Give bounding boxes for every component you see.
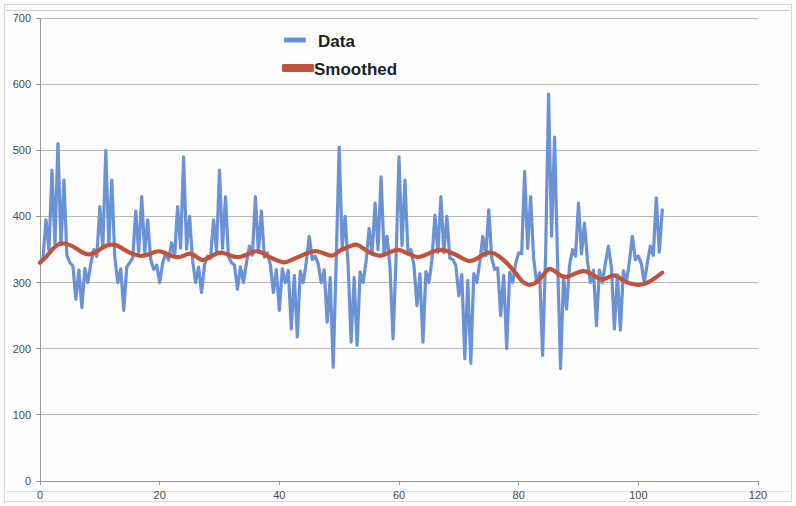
legend: DataSmoothed (282, 32, 397, 79)
y-tick-label: 500 (13, 144, 31, 156)
chart-container: 0100200300400500600700 020406080100120 D… (0, 0, 796, 506)
x-tick-label: 60 (393, 489, 405, 501)
y-tick-label: 600 (13, 78, 31, 90)
line-chart: 0100200300400500600700 020406080100120 D… (0, 0, 796, 506)
y-tick-label: 0 (25, 475, 31, 487)
data-series-line (40, 94, 662, 369)
y-tick-label: 300 (13, 277, 31, 289)
x-tick-labels: 020406080100120 (37, 481, 767, 501)
series-data (40, 94, 662, 369)
legend-label-smoothed: Smoothed (314, 60, 397, 79)
x-tick-label: 100 (629, 489, 647, 501)
y-tick-label: 200 (13, 343, 31, 355)
legend-swatch-data (284, 38, 306, 43)
y-tick-labels: 0100200300400500600700 (13, 12, 40, 487)
x-tick-label: 120 (749, 489, 767, 501)
x-tick-label: 80 (513, 489, 525, 501)
x-tick-label: 40 (273, 489, 285, 501)
y-tick-label: 100 (13, 409, 31, 421)
legend-swatch-smoothed (282, 64, 314, 72)
y-tick-label: 400 (13, 210, 31, 222)
y-tick-label: 700 (13, 12, 31, 24)
legend-label-data: Data (318, 32, 355, 51)
grid-lines (40, 18, 758, 415)
x-tick-label: 20 (154, 489, 166, 501)
x-tick-label: 0 (37, 489, 43, 501)
